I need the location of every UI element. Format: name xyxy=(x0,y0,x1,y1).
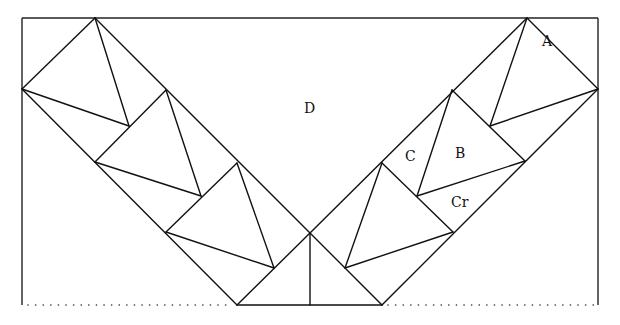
right-sq2-split-1 xyxy=(417,90,452,196)
right-sq1-side-a xyxy=(527,18,598,89)
left-inner-diagonal xyxy=(22,89,237,305)
label-a: A xyxy=(541,33,553,49)
right-sq3-side xyxy=(310,233,382,305)
right-sq1-split-2 xyxy=(490,89,598,126)
label-d: D xyxy=(304,100,315,116)
label-b: B xyxy=(455,145,465,161)
right-chain xyxy=(310,18,598,305)
right-sq1-split-1 xyxy=(490,18,527,126)
left-chain xyxy=(22,18,310,305)
labels: D A B C Cr xyxy=(304,33,553,210)
left-sq1-split-2 xyxy=(22,89,129,126)
label-c: C xyxy=(405,148,416,164)
left-sq1-side-a xyxy=(22,18,95,89)
right-outer-diagonal xyxy=(310,18,527,233)
left-sq3-side xyxy=(237,233,310,305)
right-sq3-split-1 xyxy=(345,163,382,268)
diagram-canvas: D A B C Cr xyxy=(0,0,620,325)
center-base xyxy=(237,233,382,305)
label-cr: Cr xyxy=(451,194,469,210)
left-sq2-side xyxy=(166,163,237,232)
right-sq2-side xyxy=(382,163,453,232)
left-sq1-side-b xyxy=(95,90,166,162)
right-inner-diagonal xyxy=(382,89,598,305)
